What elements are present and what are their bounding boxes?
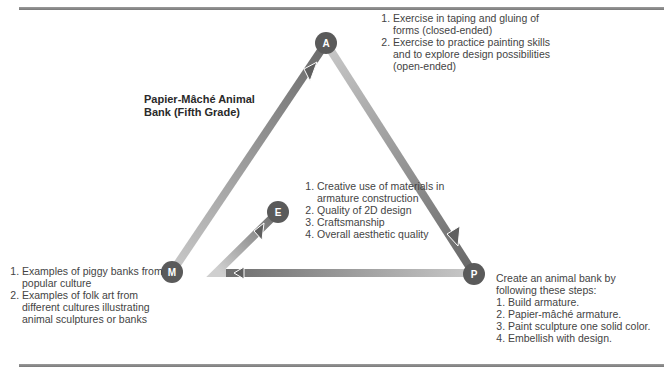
m-item: Examples of piggy banks from popular cul… [22, 265, 166, 289]
a-item: Exercise to practice painting skills and… [393, 36, 567, 72]
e-list: Creative use of materials in armature co… [301, 180, 461, 240]
p-intro: Create an animal bank by following these… [496, 272, 656, 296]
node-a-label: A [322, 38, 329, 49]
e-item: Craftsmanship [317, 216, 461, 228]
p-item: Papier-mâché armature. [508, 308, 656, 320]
title-line-1: Papier-Mâché Animal [144, 93, 274, 106]
title-line-2: Bank (Fifth Grade) [144, 106, 274, 119]
m-item: Examples of folk art from different cult… [22, 289, 166, 325]
node-m-label: M [168, 267, 176, 278]
node-p: P [463, 263, 485, 285]
diagram-title: Papier-Mâché Animal Bank (Fifth Grade) [144, 93, 274, 119]
a-item: Exercise in taping and gluing of forms (… [393, 12, 567, 36]
node-p-label: P [471, 269, 478, 280]
node-e: E [267, 201, 289, 223]
e-item: Creative use of materials in armature co… [317, 180, 461, 204]
motivation-m-text: Examples of piggy banks from popular cul… [6, 265, 166, 325]
evaluation-e-text: Creative use of materials in armature co… [301, 180, 461, 240]
p-item: Paint sculpture one solid color. [508, 320, 656, 332]
assessment-a-text: Exercise in taping and gluing of forms (… [377, 12, 567, 72]
production-p-text: Create an animal bank by following these… [496, 272, 656, 344]
node-a: A [315, 32, 337, 54]
p-item: Build armature. [508, 296, 656, 308]
p-item: Embellish with design. [508, 332, 656, 344]
p-list: Build armature. Papier-mâché armature. P… [496, 296, 656, 344]
a-list: Exercise in taping and gluing of forms (… [377, 12, 567, 72]
m-list: Examples of piggy banks from popular cul… [6, 265, 166, 325]
e-item: Overall aesthetic quality [317, 228, 461, 240]
node-e-label: E [275, 207, 282, 218]
e-item: Quality of 2D design [317, 204, 461, 216]
